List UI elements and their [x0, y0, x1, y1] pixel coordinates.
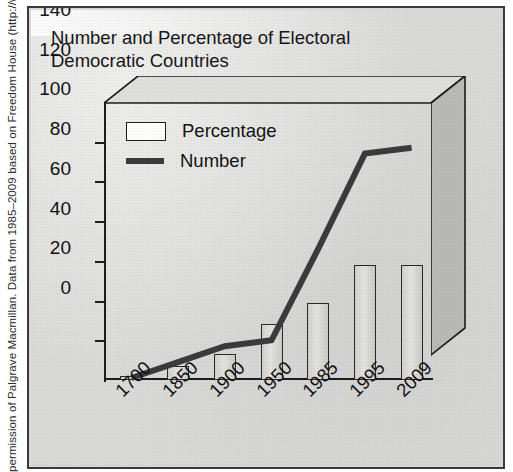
y-axis-tick [95, 340, 104, 342]
y-axis-tick-label: 100 [39, 78, 71, 100]
chart-title-line-1: Number and Percentage of Electoral [51, 26, 471, 49]
legend-label-percentage: Percentage [182, 120, 277, 142]
y-axis-tick [95, 181, 104, 183]
plot-area: Percentage Number [104, 102, 431, 380]
number-swatch-icon [126, 158, 164, 164]
page-margin-caption: permission of Palgrave Macmillan. Data f… [0, 0, 24, 472]
caption-text: permission of Palgrave Macmillan. Data f… [0, 0, 24, 472]
chart-panel: Number and Percentage of Electoral Democ… [31, 10, 501, 465]
chart-title-line-2: Democratic Countries [51, 49, 471, 72]
y-axis-line [104, 102, 106, 382]
y-axis-tick-label: 0 [60, 277, 71, 299]
y-axis-tick-label: 20 [50, 237, 71, 259]
legend-label-number: Number [180, 150, 246, 172]
y-axis-tick [95, 261, 104, 263]
y-axis-tick-label: 40 [50, 198, 71, 220]
y-axis-tick [95, 142, 104, 144]
y-axis-tick-label: 120 [39, 39, 71, 61]
y-axis-tick-label: 60 [50, 158, 71, 180]
chart-title: Number and Percentage of Electoral Democ… [51, 26, 471, 72]
plot-top-face [104, 76, 431, 103]
x-axis-labels: 1700185019001950198519952009 [104, 386, 464, 466]
y-axis-labels: 140120100806040200 [27, 10, 71, 288]
chart-figure: Number and Percentage of Electoral Democ… [27, 6, 505, 469]
chart-legend: Percentage Number [126, 118, 277, 178]
y-axis-tick-label: 140 [39, 6, 71, 21]
percentage-swatch-icon [126, 122, 166, 141]
legend-item-number: Number [126, 148, 277, 174]
legend-item-percentage: Percentage [126, 118, 277, 144]
y-axis-tick-label: 80 [50, 118, 71, 140]
y-axis-tick [95, 221, 104, 223]
plot-right-face [431, 76, 465, 381]
y-axis-tick [95, 301, 104, 303]
